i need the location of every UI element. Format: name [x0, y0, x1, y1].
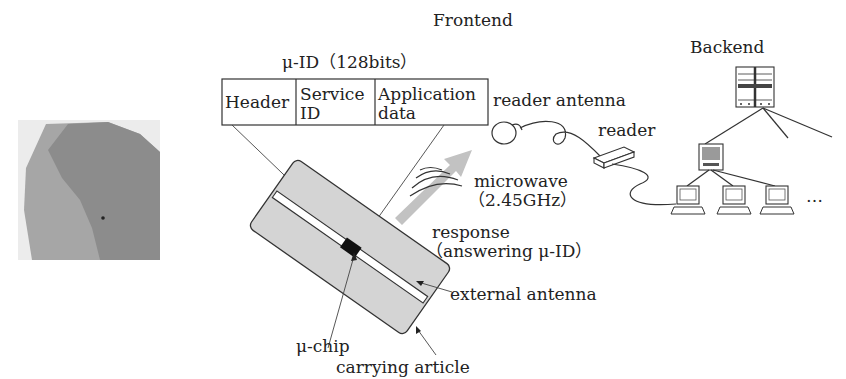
chip-dot [101, 216, 105, 220]
article-pointer [418, 330, 436, 355]
uid-field-application-1: Application [377, 84, 476, 104]
uid-title: μ-ID（128bits） [282, 52, 417, 72]
external-antenna-label: external antenna [450, 284, 597, 304]
server-link-pc [705, 108, 763, 144]
response-label-2: （answering μ-ID） [426, 241, 592, 261]
server-icon [736, 67, 774, 107]
chip-label: μ-chip [296, 336, 350, 356]
reader-label: reader [598, 120, 656, 140]
uid-field-header: Header [225, 92, 290, 112]
uid-field-application-2: data [378, 103, 416, 123]
uid-field-service-2: ID [300, 103, 320, 123]
reader-cable [612, 164, 676, 205]
client-pc-icon-2 [717, 186, 751, 214]
rfid-system-diagram: Frontend μ-ID（128bits） Header Service ID… [0, 0, 846, 379]
frontend-label: Frontend [433, 10, 513, 30]
uid-field-service-1: Service [300, 84, 364, 104]
reader-antenna-icon [492, 122, 522, 144]
carrying-article [248, 158, 452, 336]
client-pc-icon-1 [671, 186, 705, 214]
response-label-1: response [432, 222, 510, 242]
microwave-label-2: （2.45GHz） [468, 190, 577, 210]
microwave-label-1: microwave [474, 171, 568, 191]
backend-label: Backend [690, 37, 764, 57]
article-label: carrying article [336, 357, 470, 377]
workstation-icon [699, 144, 723, 170]
server-link-2 [763, 108, 788, 138]
client-pc-icon-3 [760, 186, 794, 214]
microwave-arrow [395, 150, 472, 225]
server-link-3 [763, 108, 832, 137]
antenna-cable [520, 121, 604, 160]
reader-antenna-label: reader antenna [493, 90, 626, 110]
fingertip-photo [18, 120, 160, 260]
more-clients-ellipsis: … [806, 186, 823, 206]
uid-field-box: Header Service ID Application data [222, 79, 488, 125]
pc-link-1 [687, 170, 709, 186]
